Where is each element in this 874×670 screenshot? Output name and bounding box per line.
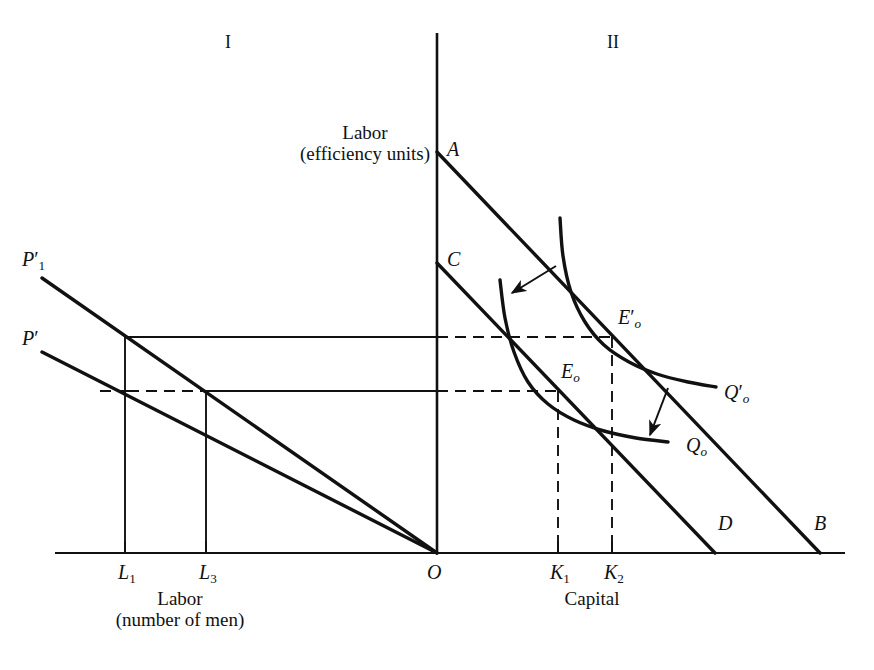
left-axis-title: Labor(number of men) <box>116 588 245 631</box>
vertical-axis-title: Labor(efficiency units) <box>300 122 430 165</box>
arrow-to-Q0-upper <box>512 266 556 293</box>
tick-label-L1: L1 <box>118 561 136 587</box>
arrow-to-Q0-lower <box>650 388 668 435</box>
axis-ticks-group <box>125 541 612 553</box>
efficiency-P-prime-1 <box>42 278 437 553</box>
figure-root: IIILabor(efficiency units)Labor(number o… <box>0 0 874 670</box>
guide-lines-group <box>100 337 612 553</box>
point-label-E-prime-0: E′o <box>618 306 641 332</box>
tick-label-L3: L3 <box>199 561 217 587</box>
point-label-B: B <box>814 512 826 534</box>
point-label-C: C <box>447 248 460 270</box>
point-label-E-0: Eo <box>561 360 580 386</box>
point-label-D: D <box>718 512 732 534</box>
quadrant-label-I: I <box>225 32 231 52</box>
point-label-A: A <box>447 138 459 160</box>
tick-label-K2: K2 <box>604 561 624 587</box>
efficiency-P-prime <box>42 352 437 553</box>
axes-group <box>55 33 845 553</box>
right-axis-title: Capital <box>565 588 620 609</box>
isocost-AB <box>437 152 820 553</box>
tick-label-K1: K1 <box>550 561 570 587</box>
point-label-O: O <box>427 561 441 583</box>
point-label-Q-0: Qo <box>686 434 707 460</box>
annotation-arrows-group <box>512 266 668 435</box>
point-label-P-prime: P′ <box>22 327 39 349</box>
quadrant-label-II: II <box>607 32 619 52</box>
point-label-Q-prime-0: Q′o <box>724 381 749 407</box>
isocost-lines-group <box>42 152 820 553</box>
point-label-P-prime-1: P′1 <box>22 248 45 274</box>
